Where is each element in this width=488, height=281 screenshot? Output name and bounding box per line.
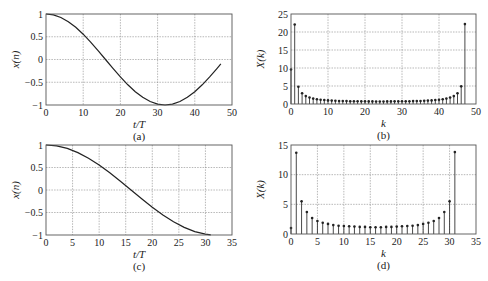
x-tick-label: 40 <box>190 107 200 118</box>
x-tick-label: 35 <box>227 237 237 248</box>
panel-a-cosine-48: 01020304050−1−0.500.51t/Tx(n)(a) <box>9 9 237 144</box>
y-axis-label: X(k) <box>254 49 267 69</box>
stem-marker <box>460 85 463 88</box>
stem-marker <box>306 211 309 214</box>
figure-canvas: 01020304050−1−0.500.51t/Tx(n)(a) 0102030… <box>0 0 488 281</box>
stem-marker <box>438 217 441 220</box>
stem-marker <box>464 23 467 26</box>
plot-frame <box>291 14 476 104</box>
stem-marker <box>385 226 388 229</box>
y-tick-label: 1 <box>38 9 43 20</box>
stem-marker <box>432 220 435 223</box>
y-tick-label: 0 <box>283 229 288 240</box>
stem-marker <box>301 92 304 95</box>
y-tick-label: −0.5 <box>25 77 43 88</box>
stem-marker <box>454 151 457 154</box>
stem-marker <box>353 225 356 228</box>
stem-marker <box>419 100 422 103</box>
stem-marker <box>397 100 400 103</box>
x-tick-label: 50 <box>227 107 237 118</box>
grid-lines <box>46 14 232 105</box>
x-tick-labels: 05101520253035 <box>289 236 482 247</box>
x-tick-label: 30 <box>445 236 455 247</box>
stem-marker <box>379 100 382 103</box>
y-axis-label: x(n) <box>9 50 22 69</box>
stem-marker <box>371 100 374 103</box>
x-tick-label: 15 <box>121 237 131 248</box>
stem-marker <box>323 99 326 102</box>
panel-d-dft-32: 05101520253035051015kX(k)(d) <box>254 140 481 273</box>
x-tick-label: 25 <box>174 237 184 248</box>
stem-marker <box>342 100 345 103</box>
y-tick-label: 10 <box>278 169 288 180</box>
stem-marker <box>395 225 398 228</box>
panel-caption: (b) <box>377 129 390 142</box>
x-tick-label: 0 <box>289 106 294 117</box>
stem-marker <box>364 100 367 103</box>
stem-marker <box>380 226 383 229</box>
y-tick-label: −1 <box>32 100 43 111</box>
y-tick-label: 10 <box>278 63 288 74</box>
y-tick-label: 0 <box>38 54 43 65</box>
stem-marker <box>308 96 311 99</box>
stem-marker <box>438 98 441 101</box>
x-tick-label: 25 <box>418 236 428 247</box>
x-tick-label: 20 <box>147 237 157 248</box>
y-axis-label: x(n) <box>9 181 22 200</box>
stem-marker <box>295 151 298 154</box>
stem-marker <box>443 211 446 214</box>
stem-marker <box>375 100 378 103</box>
x-tick-label: 10 <box>94 237 104 248</box>
stem-marker <box>441 98 444 101</box>
x-tick-label: 50 <box>471 106 481 117</box>
stem-marker <box>343 225 346 228</box>
panel-c-cosine-32: 05101520253035−1−0.500.51t/Tx(n)(c) <box>9 140 237 274</box>
stem-marker <box>445 97 448 100</box>
stem-marker <box>422 223 425 226</box>
stem-marker <box>456 92 459 95</box>
stem-marker <box>321 221 324 224</box>
stem-marker <box>364 226 367 229</box>
stem-marker <box>449 96 452 99</box>
x-tick-label: 30 <box>153 107 163 118</box>
x-tick-label: 10 <box>339 236 349 247</box>
stem-marker <box>374 226 377 229</box>
stem-marker <box>334 99 337 102</box>
x-tick-label: 20 <box>115 107 125 118</box>
y-tick-label: −0.5 <box>25 207 43 218</box>
y-tick-label: 25 <box>278 9 288 20</box>
y-tick-label: 15 <box>278 140 288 151</box>
x-tick-label: 15 <box>365 236 375 247</box>
stem-marker <box>348 225 351 228</box>
stem-marker <box>369 226 372 229</box>
x-tick-label: 35 <box>471 236 481 247</box>
x-tick-label: 30 <box>200 237 210 248</box>
x-tick-labels: 05101520253035 <box>44 237 238 248</box>
panel-caption: (d) <box>377 259 390 272</box>
stem-marker <box>345 100 348 103</box>
x-tick-label: 40 <box>434 106 444 117</box>
stem-marker <box>316 220 319 223</box>
stem-marker <box>300 200 303 203</box>
stem-marker <box>427 221 430 224</box>
stem-marker <box>319 98 322 101</box>
stem-marker <box>411 224 414 227</box>
x-tick-label: 5 <box>315 236 320 247</box>
stem-marker <box>338 100 341 103</box>
y-tick-label: 0.5 <box>31 31 44 42</box>
x-tick-label: 30 <box>397 106 407 117</box>
y-tick-label: −1 <box>32 230 43 241</box>
x-axis-label: t/T <box>133 248 146 260</box>
stem-marker <box>353 100 356 103</box>
grid-lines <box>291 145 476 234</box>
stem-marker <box>390 226 393 229</box>
y-tick-label: 0 <box>283 99 288 110</box>
stem-marker <box>427 99 430 102</box>
y-tick-label: 0.5 <box>31 162 44 173</box>
stem-marker <box>349 100 352 103</box>
stem-marker <box>293 23 296 26</box>
x-tick-label: 20 <box>360 106 370 117</box>
stem-marker <box>327 223 330 226</box>
stem-marker <box>305 95 308 98</box>
x-tick-label: 10 <box>323 106 333 117</box>
